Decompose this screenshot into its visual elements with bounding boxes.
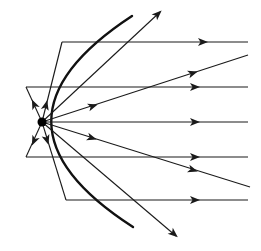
light-source-focus-dot [38,118,47,127]
incident-ray-lower-arrowhead-icon [28,135,39,147]
escaping-ray-up-shallow-2-arrowhead-icon [187,68,199,79]
incident-ray-top-arrowhead-icon [41,99,51,111]
escaping-ray-up-shallow-arrowhead-icon [87,101,99,112]
escaping-ray-down-arrowhead-icon [168,228,181,241]
parabolic-reflector-diagram [0,0,261,251]
incident-ray-upper-arrowhead-icon [28,98,39,110]
incident-ray-bottom-arrowhead-icon [42,134,53,146]
escaping-ray-down-shallow-arrowhead-icon [86,133,98,144]
escaping-ray-down [42,122,176,236]
escaping-ray-up [42,12,160,122]
